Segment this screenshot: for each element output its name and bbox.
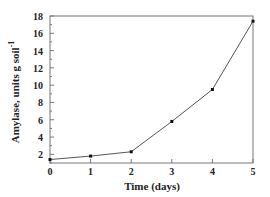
data-point-marker <box>211 88 214 91</box>
x-tick-label: 2 <box>129 166 134 177</box>
axes <box>50 16 253 163</box>
x-tick-label: 3 <box>169 166 174 177</box>
y-tick-label: 16 <box>33 28 43 39</box>
data-point-marker <box>252 20 255 23</box>
x-tick-label: 4 <box>210 166 215 177</box>
data-series <box>49 20 255 161</box>
line-chart: 01234524681012141618 Time (days) Amylase… <box>0 0 270 197</box>
y-tick-label: 12 <box>33 63 43 74</box>
chart-container: 01234524681012141618 Time (days) Amylase… <box>0 0 270 197</box>
ticks: 01234524681012141618 <box>33 11 256 177</box>
y-tick-label: 18 <box>33 11 43 22</box>
y-axis-label: Amylase, units g soil-1 <box>7 41 21 144</box>
y-tick-label: 8 <box>38 97 43 108</box>
plot-frame <box>50 16 253 163</box>
y-tick-label: 4 <box>38 132 43 143</box>
data-point-marker <box>89 155 92 158</box>
y-tick-label: 6 <box>38 115 43 126</box>
x-tick-label: 1 <box>88 166 93 177</box>
x-axis-label: Time (days) <box>124 180 180 193</box>
y-tick-label: 14 <box>33 46 43 57</box>
y-tick-label: 2 <box>38 149 43 160</box>
series-line <box>50 21 253 159</box>
x-tick-label: 0 <box>48 166 53 177</box>
data-point-marker <box>49 158 52 161</box>
x-tick-label: 5 <box>251 166 256 177</box>
y-tick-label: 10 <box>33 80 43 91</box>
data-point-marker <box>170 120 173 123</box>
data-point-marker <box>130 150 133 153</box>
